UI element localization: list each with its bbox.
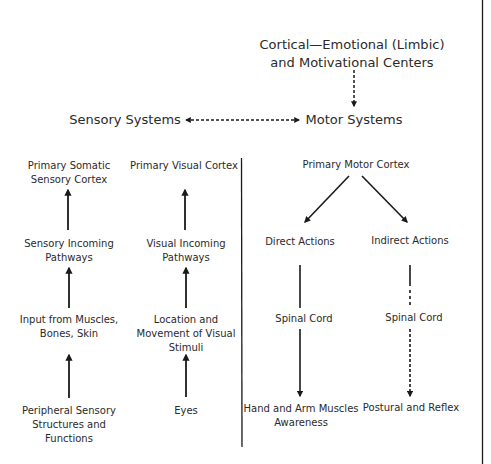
- label-line: Bones, Skin: [20, 327, 119, 341]
- sensory-systems-label: Sensory Systems: [69, 111, 181, 129]
- eyes-label: Eyes: [174, 404, 198, 418]
- label-line: Pathways: [146, 251, 225, 265]
- motor-to-direct-arrow: [305, 176, 349, 222]
- label-line: Functions: [22, 432, 116, 446]
- cortical-centers-label: Cortical—Emotional (Limbic) and Motivati…: [260, 36, 445, 71]
- label-line: Eyes: [174, 404, 198, 418]
- label-line: Spinal Cord: [275, 312, 332, 326]
- label-line: and Motivational Centers: [260, 54, 445, 72]
- primary-visual-cortex-label: Primary Visual Cortex: [130, 159, 238, 173]
- primary-motor-cortex-label: Primary Motor Cortex: [303, 158, 410, 172]
- label-line: Indirect Actions: [371, 234, 449, 248]
- label-line: Direct Actions: [265, 235, 335, 249]
- visual-incoming-pathways-label: Visual Incoming Pathways: [146, 237, 225, 265]
- label-line: Sensory Incoming: [24, 237, 113, 251]
- label-line: Pathways: [24, 251, 113, 265]
- direct-spinal-cord-label: Spinal Cord: [275, 312, 332, 326]
- label-line: Awareness: [243, 416, 358, 430]
- sensory-motor-divider: [242, 158, 243, 447]
- label-line: Primary Somatic: [28, 159, 110, 173]
- hand-arm-muscles-label: Hand and Arm Muscles Awareness: [243, 402, 358, 430]
- label-line: Location and: [137, 313, 236, 327]
- motor-systems-label: Motor Systems: [306, 111, 403, 129]
- label-line: Visual Incoming: [146, 237, 225, 251]
- label-line: Postural and Reflex: [363, 401, 459, 415]
- label-line: Cortical—Emotional (Limbic): [260, 36, 445, 54]
- label-line: Sensory Systems: [69, 111, 181, 129]
- input-muscles-bones-skin-label: Input from Muscles, Bones, Skin: [20, 313, 119, 341]
- peripheral-sensory-structures-label: Peripheral Sensory Structures and Functi…: [22, 404, 116, 445]
- location-movement-visual-stimuli-label: Location and Movement of Visual Stimuli: [137, 313, 236, 354]
- label-line: Motor Systems: [306, 111, 403, 129]
- label-line: Input from Muscles,: [20, 313, 119, 327]
- label-line: Primary Motor Cortex: [303, 158, 410, 172]
- primary-somatic-cortex-label: Primary Somatic Sensory Cortex: [28, 159, 110, 187]
- label-line: Primary Visual Cortex: [130, 159, 238, 173]
- postural-reflex-label: Postural and Reflex: [363, 401, 459, 415]
- label-line: Hand and Arm Muscles: [243, 402, 358, 416]
- label-line: Movement of Visual: [137, 327, 236, 341]
- sensory-incoming-pathways-label: Sensory Incoming Pathways: [24, 237, 113, 265]
- direct-actions-label: Direct Actions: [265, 235, 335, 249]
- indirect-spinal-cord-label: Spinal Cord: [385, 311, 442, 325]
- motor-to-indirect-arrow: [362, 176, 407, 222]
- label-line: Structures and: [22, 418, 116, 432]
- label-line: Sensory Cortex: [28, 173, 110, 187]
- neural-systems-diagram: Cortical—Emotional (Limbic) and Motivati…: [0, 0, 491, 464]
- label-line: Spinal Cord: [385, 311, 442, 325]
- indirect-actions-label: Indirect Actions: [371, 234, 449, 248]
- label-line: Stimuli: [137, 341, 236, 355]
- label-line: Peripheral Sensory: [22, 404, 116, 418]
